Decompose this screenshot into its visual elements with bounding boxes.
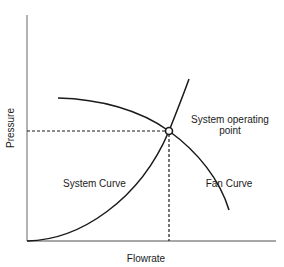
fan-system-diagram: Pressure Flowrate System Curve Fan Curve… (0, 0, 284, 267)
operating-point-label-line2: point (219, 125, 241, 136)
operating-point-label-line1: System operating (191, 114, 269, 125)
x-axis-label: Flowrate (127, 253, 166, 264)
y-axis-label: Pressure (5, 108, 16, 148)
system-curve-label: System Curve (63, 178, 126, 189)
fan-curve-label: Fan Curve (206, 178, 253, 189)
system-curve (27, 79, 189, 241)
operating-point-marker (166, 128, 173, 135)
